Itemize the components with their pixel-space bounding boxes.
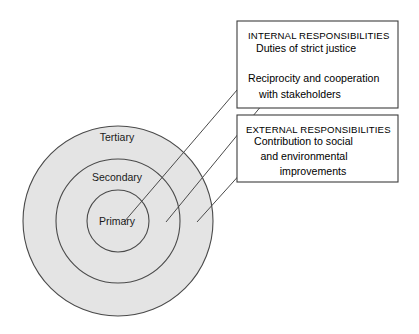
internal-box-line-2: Reciprocity and cooperation <box>248 72 379 84</box>
internal-box-line-3: with stakeholders <box>258 88 341 100</box>
internal-box-heading: INTERNAL RESPONSIBILITIES <box>248 30 389 41</box>
responsibilities-diagram: Tertiary Secondary Primary INTERNAL RESP… <box>0 0 419 334</box>
internal-box-line-1: Duties of strict justice <box>256 42 356 54</box>
external-box-heading: EXTERNAL RESPONSIBILITIES <box>246 124 391 135</box>
external-box-line-3: improvements <box>280 165 347 177</box>
ring-label-primary: Primary <box>99 215 136 227</box>
diagram-canvas: Tertiary Secondary Primary INTERNAL RESP… <box>0 0 419 334</box>
ring-label-secondary: Secondary <box>92 171 143 183</box>
ring-label-tertiary: Tertiary <box>100 131 135 143</box>
callout-internal-responsibilities: INTERNAL RESPONSIBILITIES Duties of stri… <box>237 21 398 108</box>
callout-external-responsibilities: EXTERNAL RESPONSIBILITIES Contribution t… <box>237 115 398 182</box>
external-box-line-2: and environmental <box>260 150 347 162</box>
external-box-line-1: Contribution to social <box>254 135 353 147</box>
